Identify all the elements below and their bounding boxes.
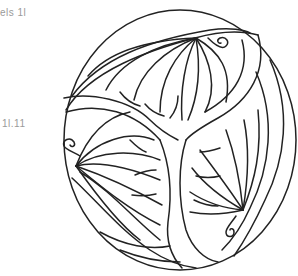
ornament-artwork (0, 0, 298, 276)
triskelion-arms (64, 29, 284, 268)
spiral-curl-right (226, 216, 236, 237)
spiral-curl-left (64, 139, 80, 156)
spiral-curl-top (208, 38, 228, 48)
leaf-fan-left (64, 112, 162, 240)
